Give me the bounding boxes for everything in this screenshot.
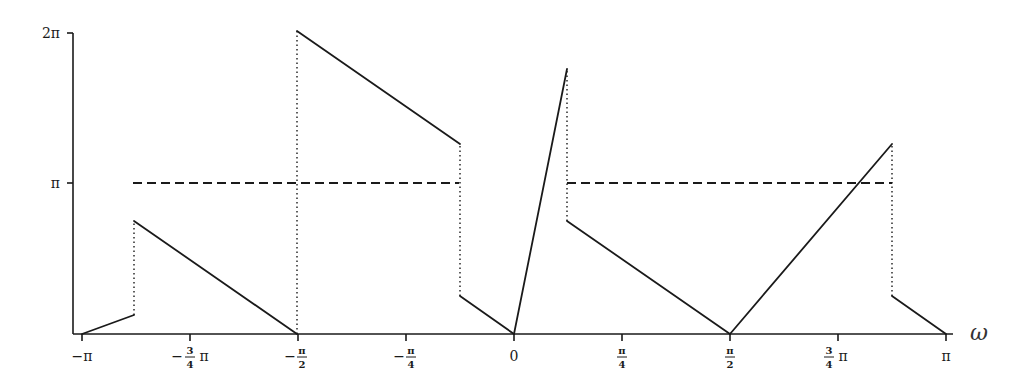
svg-text:π: π	[618, 345, 625, 356]
svg-text:−: −	[393, 348, 405, 364]
x-label-pi: π	[941, 348, 950, 364]
x-label-3q-pi: 3 4 π	[824, 345, 848, 370]
svg-text:4: 4	[619, 359, 626, 370]
svg-text:π: π	[407, 345, 414, 356]
svg-text:3: 3	[826, 345, 833, 356]
svg-text:4: 4	[187, 359, 194, 370]
svg-text:3: 3	[187, 345, 194, 356]
svg-text:π: π	[726, 345, 733, 356]
svg-text:2: 2	[299, 359, 306, 370]
x-label-neg-3q-pi: − 3 4 π	[171, 345, 208, 370]
phase-plot: 2π π −π − 3 4 π − π 2 − π 4 0 π 4 π 2 3 …	[0, 0, 1031, 388]
svg-text:−: −	[171, 348, 183, 364]
axes	[67, 33, 953, 341]
y-label-pi: π	[51, 175, 60, 191]
svg-text:4: 4	[826, 359, 833, 370]
x-label-quarter-pi: π 4	[617, 345, 627, 370]
x-label-neg-pi: −π	[72, 348, 93, 364]
svg-text:2: 2	[727, 359, 734, 370]
x-ticks	[82, 334, 946, 341]
svg-text:−: −	[284, 348, 296, 364]
svg-text:4: 4	[408, 359, 415, 370]
x-label-neg-quarter-pi: − π 4	[393, 345, 416, 370]
svg-text:π: π	[199, 348, 208, 364]
x-axis-variable-omega: ω	[970, 320, 988, 345]
svg-text:π: π	[298, 345, 305, 356]
svg-text:π: π	[838, 348, 847, 364]
y-label-2pi: 2π	[42, 25, 60, 41]
x-label-half-pi: π 2	[725, 345, 735, 370]
x-label-zero: 0	[510, 348, 519, 364]
x-label-neg-half-pi: − π 2	[284, 345, 307, 370]
